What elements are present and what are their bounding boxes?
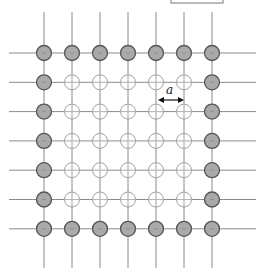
arrow-head-right-icon (178, 97, 184, 103)
lattice-diagram: a (0, 0, 262, 277)
arrow-head-left-icon (158, 97, 164, 103)
top-box (171, 0, 223, 3)
spacing-label: a (166, 83, 173, 97)
